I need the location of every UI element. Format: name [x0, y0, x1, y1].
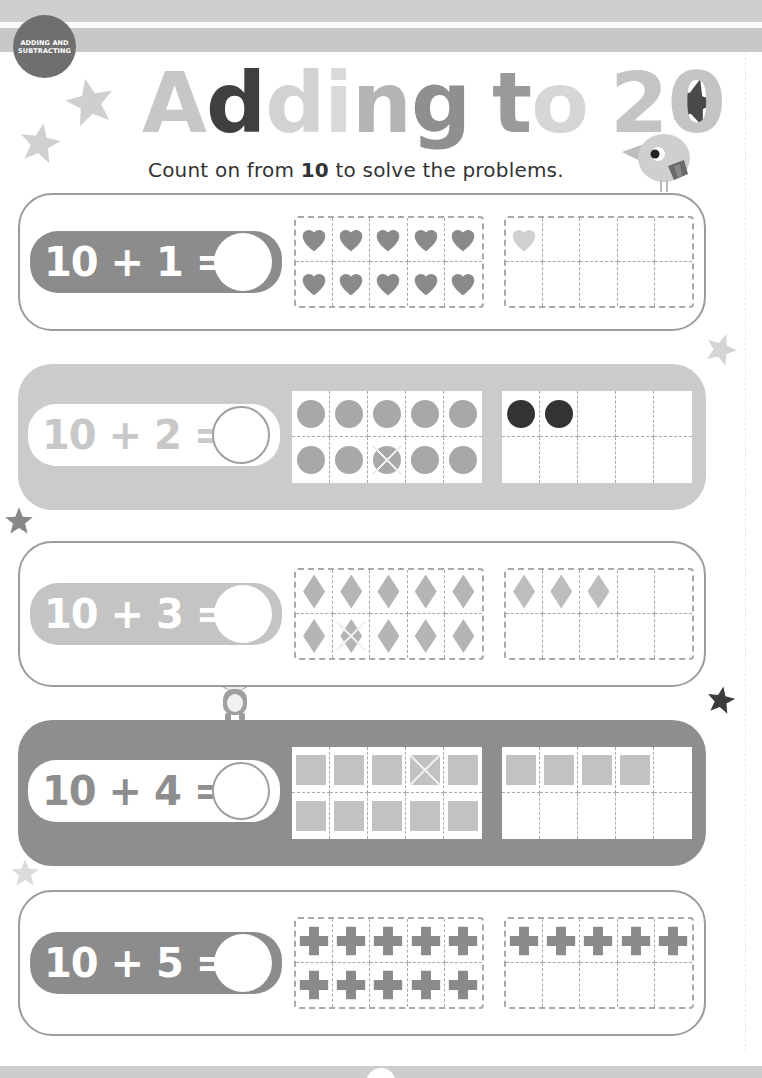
answer-circle[interactable] — [214, 585, 272, 643]
square-icon — [334, 801, 364, 831]
frame-cell — [370, 614, 407, 658]
equation-pill: 10 + 2 = — [28, 404, 280, 466]
frame-cell — [408, 919, 445, 963]
frame-cell — [506, 614, 543, 658]
diamond-icon — [452, 575, 474, 609]
frame-cell — [408, 218, 445, 262]
heart-icon — [448, 225, 478, 255]
frame-cell — [616, 391, 654, 437]
diamond-icon — [377, 575, 399, 609]
frame-cell — [368, 391, 406, 437]
problem-row: 10 + 5 = — [18, 890, 706, 1036]
ten-frame-first — [294, 917, 484, 1009]
square-icon — [334, 755, 364, 785]
problem-row: 10 + 2 = — [18, 364, 706, 510]
plus-icon — [371, 924, 405, 958]
frame-cell — [368, 437, 406, 483]
ten-frame-first — [292, 391, 482, 483]
equation-text: 10 + 2 = — [28, 412, 226, 458]
frame-cell — [654, 793, 692, 839]
diamond-icon — [415, 575, 437, 609]
badge-line-1: ADDING AND — [13, 39, 76, 47]
dot-icon — [507, 400, 535, 428]
heart-icon — [299, 225, 329, 255]
frame-cell — [655, 218, 692, 262]
square-icon — [296, 755, 326, 785]
frame-cell — [506, 963, 543, 1007]
title-letter: n — [352, 58, 411, 148]
instructions-bold-number: 10 — [301, 158, 329, 182]
frame-cell — [445, 963, 482, 1007]
frame-cell — [408, 614, 445, 658]
answer-circle[interactable] — [212, 762, 270, 820]
frame-cell — [406, 747, 444, 793]
equation-text: 10 + 1 = — [30, 239, 228, 285]
dot-icon — [411, 400, 439, 428]
plus-icon — [297, 968, 331, 1002]
frame-cell — [580, 963, 617, 1007]
plus-icon — [446, 968, 480, 1002]
frame-cell — [618, 919, 655, 963]
bird-icon — [620, 128, 700, 194]
frame-cell — [655, 919, 692, 963]
frame-cell — [368, 747, 406, 793]
frame-cell — [655, 963, 692, 1007]
frame-cell — [580, 262, 617, 306]
frame-cell — [444, 747, 482, 793]
title-letter: g — [411, 58, 470, 148]
frame-cell — [370, 218, 407, 262]
instructions-prefix: Count on from — [148, 158, 301, 182]
plus-icon — [409, 924, 443, 958]
frame-cell — [296, 614, 333, 658]
equation-pill: 10 + 1 = — [30, 231, 282, 293]
ten-frame-second — [502, 747, 692, 839]
frame-cell — [578, 437, 616, 483]
equation-text: 10 + 3 = — [30, 591, 228, 637]
frame-cell — [543, 963, 580, 1007]
plus-icon — [371, 968, 405, 1002]
frame-cell — [506, 218, 543, 262]
answer-circle[interactable] — [212, 406, 270, 464]
frame-cell — [444, 391, 482, 437]
square-icon — [410, 801, 440, 831]
answer-circle[interactable] — [214, 233, 272, 291]
plus-icon — [297, 924, 331, 958]
equation-pill: 10 + 3 = — [30, 583, 282, 645]
star-icon — [4, 506, 34, 536]
header-band — [0, 28, 762, 52]
frame-cell — [370, 262, 407, 306]
frame-cell — [333, 963, 370, 1007]
frame-cell — [333, 570, 370, 614]
frame-cell — [408, 570, 445, 614]
frame-cell — [618, 262, 655, 306]
ten-frame-second — [502, 391, 692, 483]
diamond-icon — [340, 619, 362, 653]
square-icon — [296, 801, 326, 831]
equation-text: 10 + 4 = — [28, 768, 226, 814]
diamond-icon — [415, 619, 437, 653]
title-letter: i — [324, 58, 352, 148]
frame-cell — [408, 963, 445, 1007]
answer-circle[interactable] — [214, 934, 272, 992]
frame-cell — [618, 218, 655, 262]
frame-cell — [654, 391, 692, 437]
frame-cell — [330, 747, 368, 793]
frame-cell — [445, 919, 482, 963]
frame-cell — [333, 919, 370, 963]
square-icon — [506, 755, 536, 785]
square-icon — [620, 755, 650, 785]
problem-row: 10 + 1 = — [18, 193, 706, 331]
equation-pill: 10 + 5 = — [30, 932, 282, 994]
title-letter: A — [142, 58, 206, 148]
diamond-icon — [587, 575, 609, 609]
dot-icon — [297, 446, 325, 474]
frame-cell — [292, 793, 330, 839]
frame-cell — [543, 218, 580, 262]
dot-icon — [373, 400, 401, 428]
dot-icon — [449, 446, 477, 474]
ten-frame-first — [292, 747, 482, 839]
frame-cell — [445, 218, 482, 262]
frame-cell — [502, 391, 540, 437]
frame-cell — [370, 919, 407, 963]
frame-cell — [292, 747, 330, 793]
